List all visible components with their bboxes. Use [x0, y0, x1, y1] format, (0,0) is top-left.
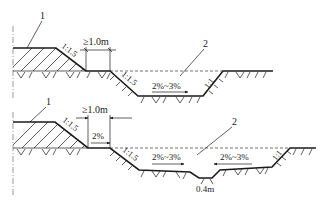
- top-bottom-gradient-label: 2%~3%: [152, 81, 181, 91]
- bottom-right-gradient-label: 2%~3%: [220, 152, 249, 162]
- bottom-ditch-outer-slope-label: 1:1: [270, 149, 283, 163]
- top-ground-profile: [13, 48, 273, 96]
- top-berm-dimension: [80, 47, 116, 71]
- ditch-cross-section-diagram: ≥1.0m 1:1.5 1:1.5 1:1 2%~3% 1 2: [0, 0, 326, 209]
- top-ground-hatch: [17, 72, 266, 103]
- top-berm-width-label: ≥1.0m: [83, 36, 109, 47]
- top-callout-1: 1: [40, 10, 45, 21]
- top-section: ≥1.0m 1:1.5 1:1.5 1:1 2%~3% 1 2: [0, 10, 273, 103]
- top-callout-1-leader: [27, 21, 42, 48]
- bottom-section: ≥1.0m 2% 1:1.5 1:1.5 1:1 2%~3% 2%~3% 0.4…: [0, 96, 316, 195]
- top-callout-2-leader: [180, 49, 204, 76]
- bottom-ditch-inner-slope-label: 1:1.5: [121, 145, 141, 163]
- bottom-callout-2: 2: [232, 116, 237, 127]
- top-ditch-inner-slope-label: 1:1.5: [120, 69, 140, 88]
- bottom-ground-profile: [13, 122, 316, 178]
- top-ditch-outer-slope-label: 1:1: [202, 77, 215, 91]
- bottom-berm-gradient-label: 2%: [92, 131, 105, 141]
- bottom-channel-width-label: 0.4m: [196, 184, 214, 194]
- bottom-callout-2-leader: [197, 127, 232, 155]
- bottom-callout-1-leader: [30, 107, 46, 122]
- top-embankment-slope-label: 1:1.5: [60, 41, 80, 59]
- bottom-callout-1: 1: [46, 96, 51, 107]
- bottom-left-gradient-label: 2%~3%: [152, 152, 181, 162]
- top-callout-2: 2: [203, 38, 208, 49]
- bottom-berm-width-label: ≥1.0m: [82, 104, 108, 115]
